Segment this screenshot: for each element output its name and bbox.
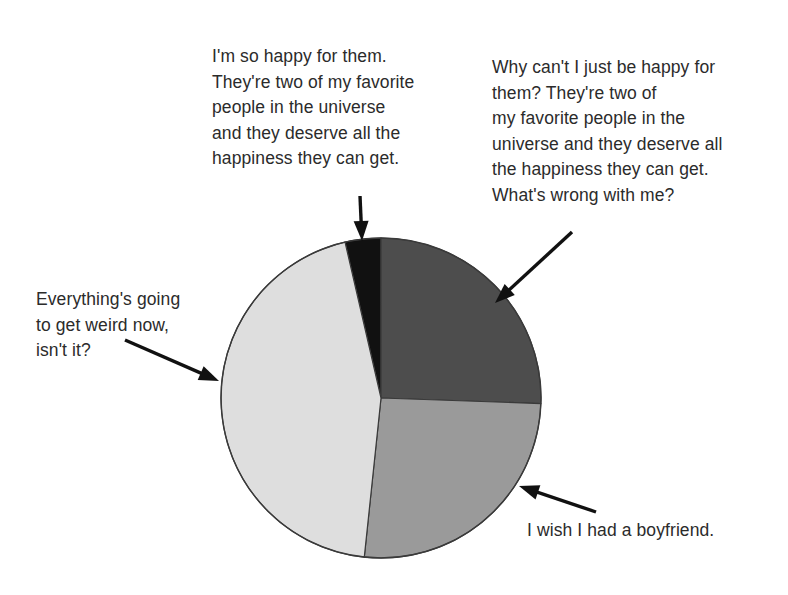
- callout-text-everything-gets-weird: Everything's going to get weird now, isn…: [36, 287, 246, 364]
- arrow-to-dark-gray-slice-shaft: [507, 232, 572, 292]
- arrow-to-light-gray-slice-head: [198, 366, 219, 381]
- pie-slice-group: [221, 238, 541, 558]
- arrow-to-black-slice-shaft: [360, 196, 361, 225]
- arrow-to-medium-gray-slice-shaft: [534, 491, 596, 512]
- pie-slice-why-can-t-i-just-be-happy[interactable]: [381, 238, 541, 404]
- arrow-to-black-slice-head: [354, 221, 369, 241]
- figure-canvas: I'm so happy for them. They're two of my…: [0, 0, 788, 595]
- arrow-to-medium-gray-slice-head: [519, 485, 540, 499]
- pie-slice-wish-i-had-a-boyfriend[interactable]: [364, 398, 541, 558]
- callout-text-so-happy-for-them: I'm so happy for them. They're two of my…: [212, 44, 480, 172]
- arrow-to-medium-gray-slice: [519, 485, 596, 512]
- arrow-to-black-slice: [354, 196, 369, 241]
- callout-text-wish-i-had-a-boyfriend: I wish I had a boyfriend.: [527, 518, 785, 544]
- arrow-to-dark-gray-slice: [495, 232, 572, 303]
- callout-text-why-cant-i-be-happy: Why can't I just be happy for them? They…: [492, 55, 782, 208]
